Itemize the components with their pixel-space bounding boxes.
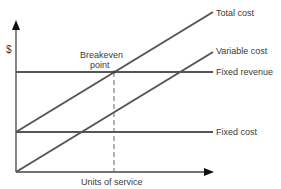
breakeven-point-marker — [113, 71, 116, 74]
total-cost-label: Total cost — [216, 8, 254, 18]
fixed-cost-label: Fixed cost — [216, 127, 257, 137]
breakeven-label-line1: Breakeven — [80, 50, 123, 60]
variable-cost-label: Variable cost — [216, 46, 267, 56]
y-axis-label: $ — [6, 45, 12, 55]
x-axis-label: Units of service — [81, 177, 143, 187]
x-axis-arrow-icon — [204, 168, 214, 176]
breakeven-chart — [0, 0, 281, 189]
fixed-revenue-label: Fixed revenue — [216, 67, 273, 77]
y-axis-arrow-icon — [12, 20, 20, 30]
breakeven-label-line2: point — [90, 60, 110, 70]
